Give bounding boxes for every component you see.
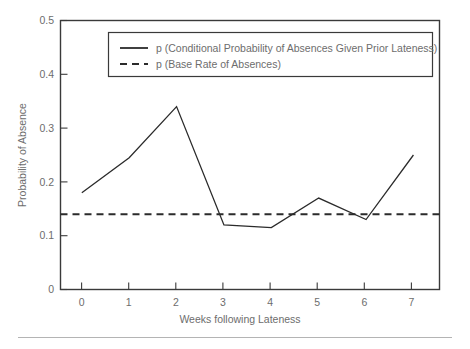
- absence-probability-line-chart: 0 0.1 0.2 0.3 0.4 0.5 0 1 2 3 4 5 6 7 We…: [0, 0, 470, 349]
- legend-label-conditional: p (Conditional Probability of Absences G…: [156, 42, 437, 54]
- y-tick-label-2: 0.2: [39, 176, 54, 188]
- y-tick-label-5: 0.5: [39, 14, 54, 26]
- y-tick-label-3: 0.3: [39, 122, 54, 134]
- y-tick-label-0: 0: [48, 283, 54, 295]
- y-axis-title: Probability of Absence: [16, 103, 28, 207]
- x-axis-title: Weeks following Lateness: [179, 313, 300, 325]
- x-tick-label-5: 5: [314, 296, 320, 308]
- x-axis-ticks: [82, 283, 412, 290]
- x-tick-label-4: 4: [267, 296, 273, 308]
- y-tick-label-1: 0.1: [39, 229, 54, 241]
- x-tick-label-0: 0: [79, 296, 85, 308]
- legend-label-base-rate: p (Base Rate of Absences): [156, 58, 281, 70]
- x-tick-label-1: 1: [126, 296, 132, 308]
- legend-box: [109, 33, 433, 77]
- series-conditional-probability-line: [82, 107, 414, 228]
- y-axis-ticks: [61, 21, 68, 290]
- x-tick-label-3: 3: [220, 296, 226, 308]
- figure-container: 0 0.1 0.2 0.3 0.4 0.5 0 1 2 3 4 5 6 7 We…: [0, 0, 470, 349]
- x-tick-label-6: 6: [361, 296, 367, 308]
- y-tick-label-4: 0.4: [39, 68, 54, 80]
- x-tick-label-7: 7: [408, 296, 414, 308]
- legend: p (Conditional Probability of Absences G…: [109, 33, 438, 77]
- x-tick-label-2: 2: [173, 296, 179, 308]
